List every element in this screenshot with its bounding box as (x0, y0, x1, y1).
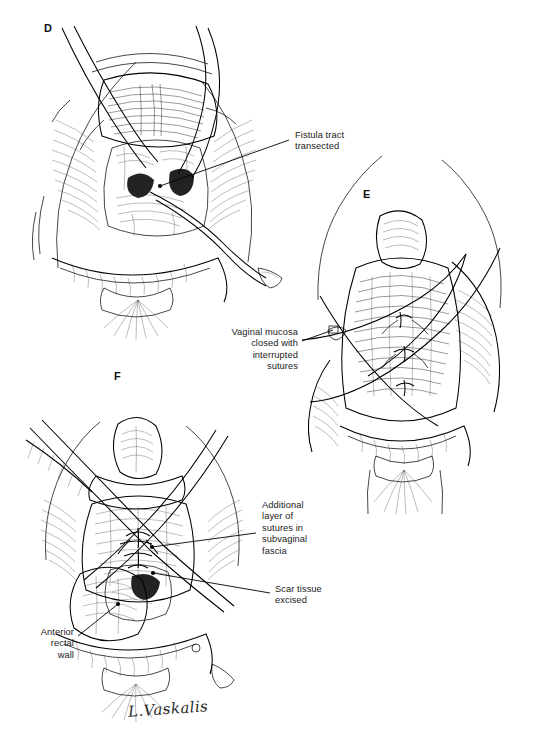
panel-letter-e: E (363, 188, 371, 200)
figure-background (0, 0, 533, 751)
leader-dot-additional-layer-sutures (150, 545, 154, 549)
leader-dot-fistula-tract-transected (158, 184, 162, 188)
annotation-fistula-tract-transected: Fistula tract transected (295, 130, 344, 153)
surgical-illustration-figure (0, 0, 533, 751)
annotation-anterior-rectal-wall: Anterior rectal wall (12, 627, 74, 661)
leader-dot-anterior-rectal-wall (116, 602, 120, 606)
annotation-scar-tissue-excised: Scar tissue excised (275, 584, 322, 607)
panel-letter-d: D (44, 22, 52, 34)
annotation-vaginal-mucosa-closed: Vaginal mucosa closed with interrupted s… (190, 327, 298, 373)
annotation-additional-layer-sutures: Additional layer of sutures in subvagina… (262, 500, 307, 557)
leader-dot-scar-tissue-excised (151, 571, 155, 575)
panel-letter-f: F (114, 370, 121, 382)
